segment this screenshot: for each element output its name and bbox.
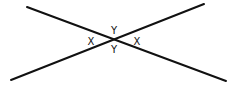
angle-label-left: X — [88, 36, 95, 47]
angle-label-right: X — [134, 36, 141, 47]
line-2 — [11, 4, 204, 80]
angle-label-top: Y — [110, 25, 118, 36]
angle-label-bottom: Y — [110, 44, 118, 55]
intersecting-lines-diagram: X Y X Y — [0, 0, 239, 87]
diagram-canvas: X Y X Y — [0, 0, 239, 87]
line-1 — [27, 7, 226, 81]
